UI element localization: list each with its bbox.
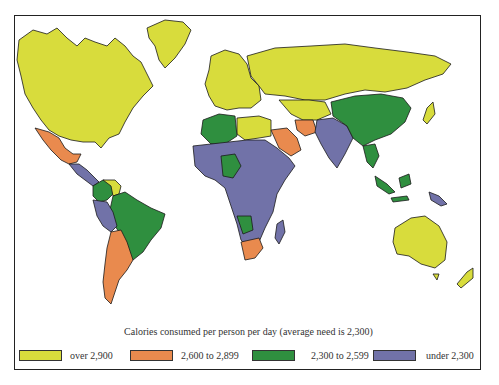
- legend-item-over-2900: over 2,900: [19, 348, 113, 362]
- region-greenland: [147, 20, 191, 68]
- region-australia: [393, 216, 447, 268]
- legend-swatch-purple: [373, 350, 416, 361]
- region-southeast-asia: [363, 144, 379, 168]
- region-iran: [295, 120, 317, 136]
- region-algeria-morocco: [201, 114, 237, 144]
- region-japan: [423, 102, 435, 124]
- region-papua-new-guinea: [429, 192, 447, 206]
- region-russia: [247, 44, 451, 100]
- region-libya-egypt: [237, 116, 271, 140]
- legend-swatch-green: [252, 350, 295, 361]
- region-central-america: [69, 164, 99, 186]
- legend-item-2300-2599: 2,300 to 2,599: [252, 348, 369, 362]
- legend: over 2,900 2,600 to 2,899 2,300 to 2,599…: [19, 348, 479, 362]
- legend-label: 2,600 to 2,899: [181, 350, 239, 361]
- world-map: [15, 16, 482, 371]
- legend-item-under-2300: under 2,300: [373, 348, 474, 362]
- region-tasmania: [433, 274, 439, 280]
- legend-swatch-orange: [130, 350, 173, 361]
- legend-label: 2,300 to 2,599: [311, 350, 369, 361]
- legend-label: under 2,300: [426, 350, 474, 361]
- region-new-zealand: [457, 268, 473, 288]
- region-south-africa: [241, 238, 263, 260]
- region-indonesia: [375, 174, 411, 202]
- legend-label: over 2,900: [70, 350, 113, 361]
- legend-item-2600-2899: 2,600 to 2,899: [130, 348, 239, 362]
- legend-swatch-yellow: [19, 350, 62, 361]
- map-frame: Calories consumed per person per day (av…: [14, 15, 481, 370]
- region-central-asia: [279, 100, 331, 120]
- map-caption: Calories consumed per person per day (av…: [15, 326, 482, 337]
- region-madagascar: [275, 220, 285, 244]
